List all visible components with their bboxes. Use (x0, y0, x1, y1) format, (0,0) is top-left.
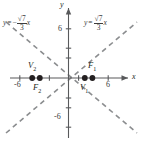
point-label-V1-sub: 1 (85, 88, 88, 94)
x-tick-label-negative-six: -6 (14, 81, 21, 89)
hyperbola-figure: x y -6 6 6 -6 V2 F2 V1 F1 y=−√73x y=√73x (0, 0, 143, 144)
y-tick-label-positive-six: 6 (58, 25, 62, 33)
asymptote-left-radicand: 7 (22, 14, 26, 23)
point-label-V1: V1 (80, 83, 88, 94)
point-V1 (82, 75, 88, 81)
asymptote-left-numerator: √7 (17, 15, 27, 23)
point-F2 (37, 75, 43, 81)
point-label-V2: V2 (28, 61, 36, 72)
x-axis-label: x (132, 73, 136, 81)
x-tick-label-positive-six: 6 (106, 81, 110, 89)
asymptote-left-fraction: √73 (17, 15, 27, 32)
radical-sign-left: √ (18, 15, 22, 23)
point-label-V2-sub: 2 (33, 66, 36, 72)
point-label-F1-sub: 1 (93, 66, 96, 72)
radical-glyph-left: √ (18, 14, 22, 23)
point-label-F2: F2 (33, 83, 41, 94)
asymptote-right-numerator: √7 (94, 15, 104, 23)
radical-glyph-right: √ (95, 14, 99, 23)
y-tick-label-negative-six: -6 (54, 113, 61, 121)
asymptote-label-right: y=√73x (84, 15, 107, 32)
x-axis-arrowhead (122, 75, 129, 80)
asymptote-right-fraction: √73 (94, 15, 104, 32)
y-axis-label: y (60, 1, 64, 9)
asymptote-right-radicand: 7 (99, 14, 103, 23)
point-label-F2-sub: 2 (38, 88, 41, 94)
asymptote-left-variable: x (27, 18, 30, 27)
point-label-F1: F1 (88, 61, 96, 72)
point-V2 (29, 75, 35, 81)
asymptote-right-denominator: 3 (94, 24, 104, 32)
asymptote-right-variable: x (103, 18, 106, 27)
radical-sign-right: √ (95, 15, 99, 23)
y-axis-arrowhead (66, 8, 71, 15)
asymptote-label-left: y=−√73x (3, 15, 30, 32)
point-F1 (90, 75, 96, 81)
asymptote-left-denominator: 3 (17, 24, 27, 32)
